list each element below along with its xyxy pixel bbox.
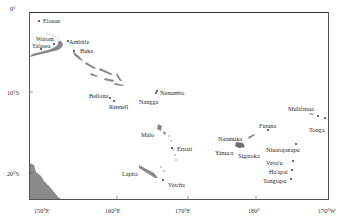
place-label-malo: Malo — [141, 131, 154, 138]
place-label-watom: Watom — [36, 35, 54, 42]
place-label-talasea: Talasea — [32, 42, 50, 49]
landmass-australia — [30, 163, 61, 199]
place-label-lapita: Lapita — [122, 170, 138, 177]
place-label-futuna: Futuna — [259, 122, 276, 129]
landmass-makira — [114, 83, 124, 86]
landmass-isabel — [99, 68, 113, 75]
place-label-natunuka: Natunuka — [218, 135, 242, 142]
place-label-yanuca: Yanuca — [215, 149, 233, 156]
place-label-ambitle: Ambitle — [69, 38, 89, 45]
place-label-buka: Buka — [80, 47, 93, 54]
landmass-viti-levu — [235, 142, 245, 148]
place-label-eruati: Eruati — [177, 145, 192, 152]
place-label-vatcha: Vatcha — [168, 181, 185, 188]
landmass-guadalcanal — [104, 78, 114, 82]
landmass-choiseul — [85, 62, 96, 69]
lat-tick-20s: 20°S — [7, 170, 19, 177]
landmass-espiritu-santo — [157, 124, 162, 131]
lon-tick-170e: 170°E — [175, 207, 191, 214]
lon-tick-180: 180° — [248, 207, 260, 214]
landmass-new-caledonia — [139, 165, 158, 178]
lat-tick-0: 0° — [10, 5, 16, 12]
lon-tick-160e: 160°E — [105, 207, 121, 214]
landmass-new-georgia — [90, 73, 98, 77]
place-label-niuatoputapu: Niuatoputapu — [266, 146, 300, 153]
lon-tick-170w: 170°W — [318, 207, 336, 214]
place-label-sigatoka: Sigatoka — [238, 152, 260, 159]
place-label-nenumbo: Nenumbo — [160, 89, 184, 96]
place-label-vavau: Vava'u — [266, 159, 283, 166]
lat-tick-10s: 10°S — [7, 89, 19, 96]
place-label-rennell: Rennell — [109, 103, 128, 110]
place-label-bellona: Bellona — [89, 92, 108, 99]
landmass-malaita — [116, 73, 122, 81]
place-label-elouae: Elouae — [43, 17, 60, 24]
place-label-tongtapu: Tongtapu — [263, 177, 286, 184]
landmass-vanua-levu — [248, 134, 255, 139]
place-label-nangga: Nangga — [139, 98, 158, 105]
map: 0° 10°S 20°S 150°E 160°E 170°E 180° 170°… — [0, 0, 344, 223]
landmass-samoa — [309, 113, 314, 115]
place-label-haapai: Ha'apai — [269, 168, 288, 175]
lon-tick-150e: 150°E — [34, 207, 50, 214]
place-label-tonga: Tonga — [309, 126, 324, 133]
place-label-mulifanua: Mulifanua — [288, 105, 314, 112]
